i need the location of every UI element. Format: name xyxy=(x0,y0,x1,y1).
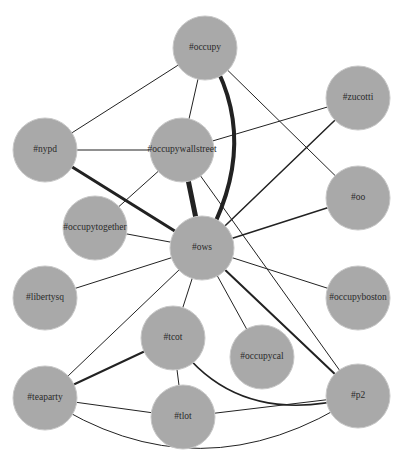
nodes-layer: #occupy#nypd#occupywallstreet#zucotti#oo… xyxy=(13,16,390,449)
node-zucotti[interactable]: #zucotti xyxy=(326,66,390,130)
node-label: #p2 xyxy=(351,390,366,400)
node-occupy[interactable]: #occupy xyxy=(173,16,237,80)
node-label: #tlot xyxy=(174,411,192,421)
node-ows[interactable]: #ows xyxy=(170,216,234,280)
node-occupytogether[interactable]: #occupytogether xyxy=(63,196,127,260)
node-occupywallstreet[interactable]: #occupywallstreet xyxy=(147,118,216,182)
node-label: #occupytogether xyxy=(63,222,127,232)
node-occupyboston[interactable]: #occupyboston xyxy=(326,266,390,330)
node-label: #nypd xyxy=(33,144,57,154)
node-oo[interactable]: #oo xyxy=(326,166,390,230)
node-tlot[interactable]: #tlot xyxy=(151,385,215,449)
node-label: #zucotti xyxy=(343,92,374,102)
node-p2[interactable]: #p2 xyxy=(326,364,390,428)
node-teaparty[interactable]: #teaparty xyxy=(13,366,77,430)
network-graph: #occupy#nypd#occupywallstreet#zucotti#oo… xyxy=(0,0,410,466)
node-occupycal[interactable]: #occupycal xyxy=(230,325,294,389)
node-label: #occupyboston xyxy=(329,292,387,302)
node-label: #teaparty xyxy=(27,392,63,402)
node-label: #tcot xyxy=(164,332,183,342)
node-label: #occupywallstreet xyxy=(147,144,216,154)
node-tcot[interactable]: #tcot xyxy=(141,306,205,370)
node-label: #occupy xyxy=(189,42,221,52)
node-libertysq[interactable]: #libertysq xyxy=(13,266,77,330)
node-label: #occupycal xyxy=(240,351,284,361)
node-label: #oo xyxy=(351,192,366,202)
node-nypd[interactable]: #nypd xyxy=(13,118,77,182)
node-label: #ows xyxy=(192,242,212,252)
node-label: #libertysq xyxy=(26,292,64,302)
